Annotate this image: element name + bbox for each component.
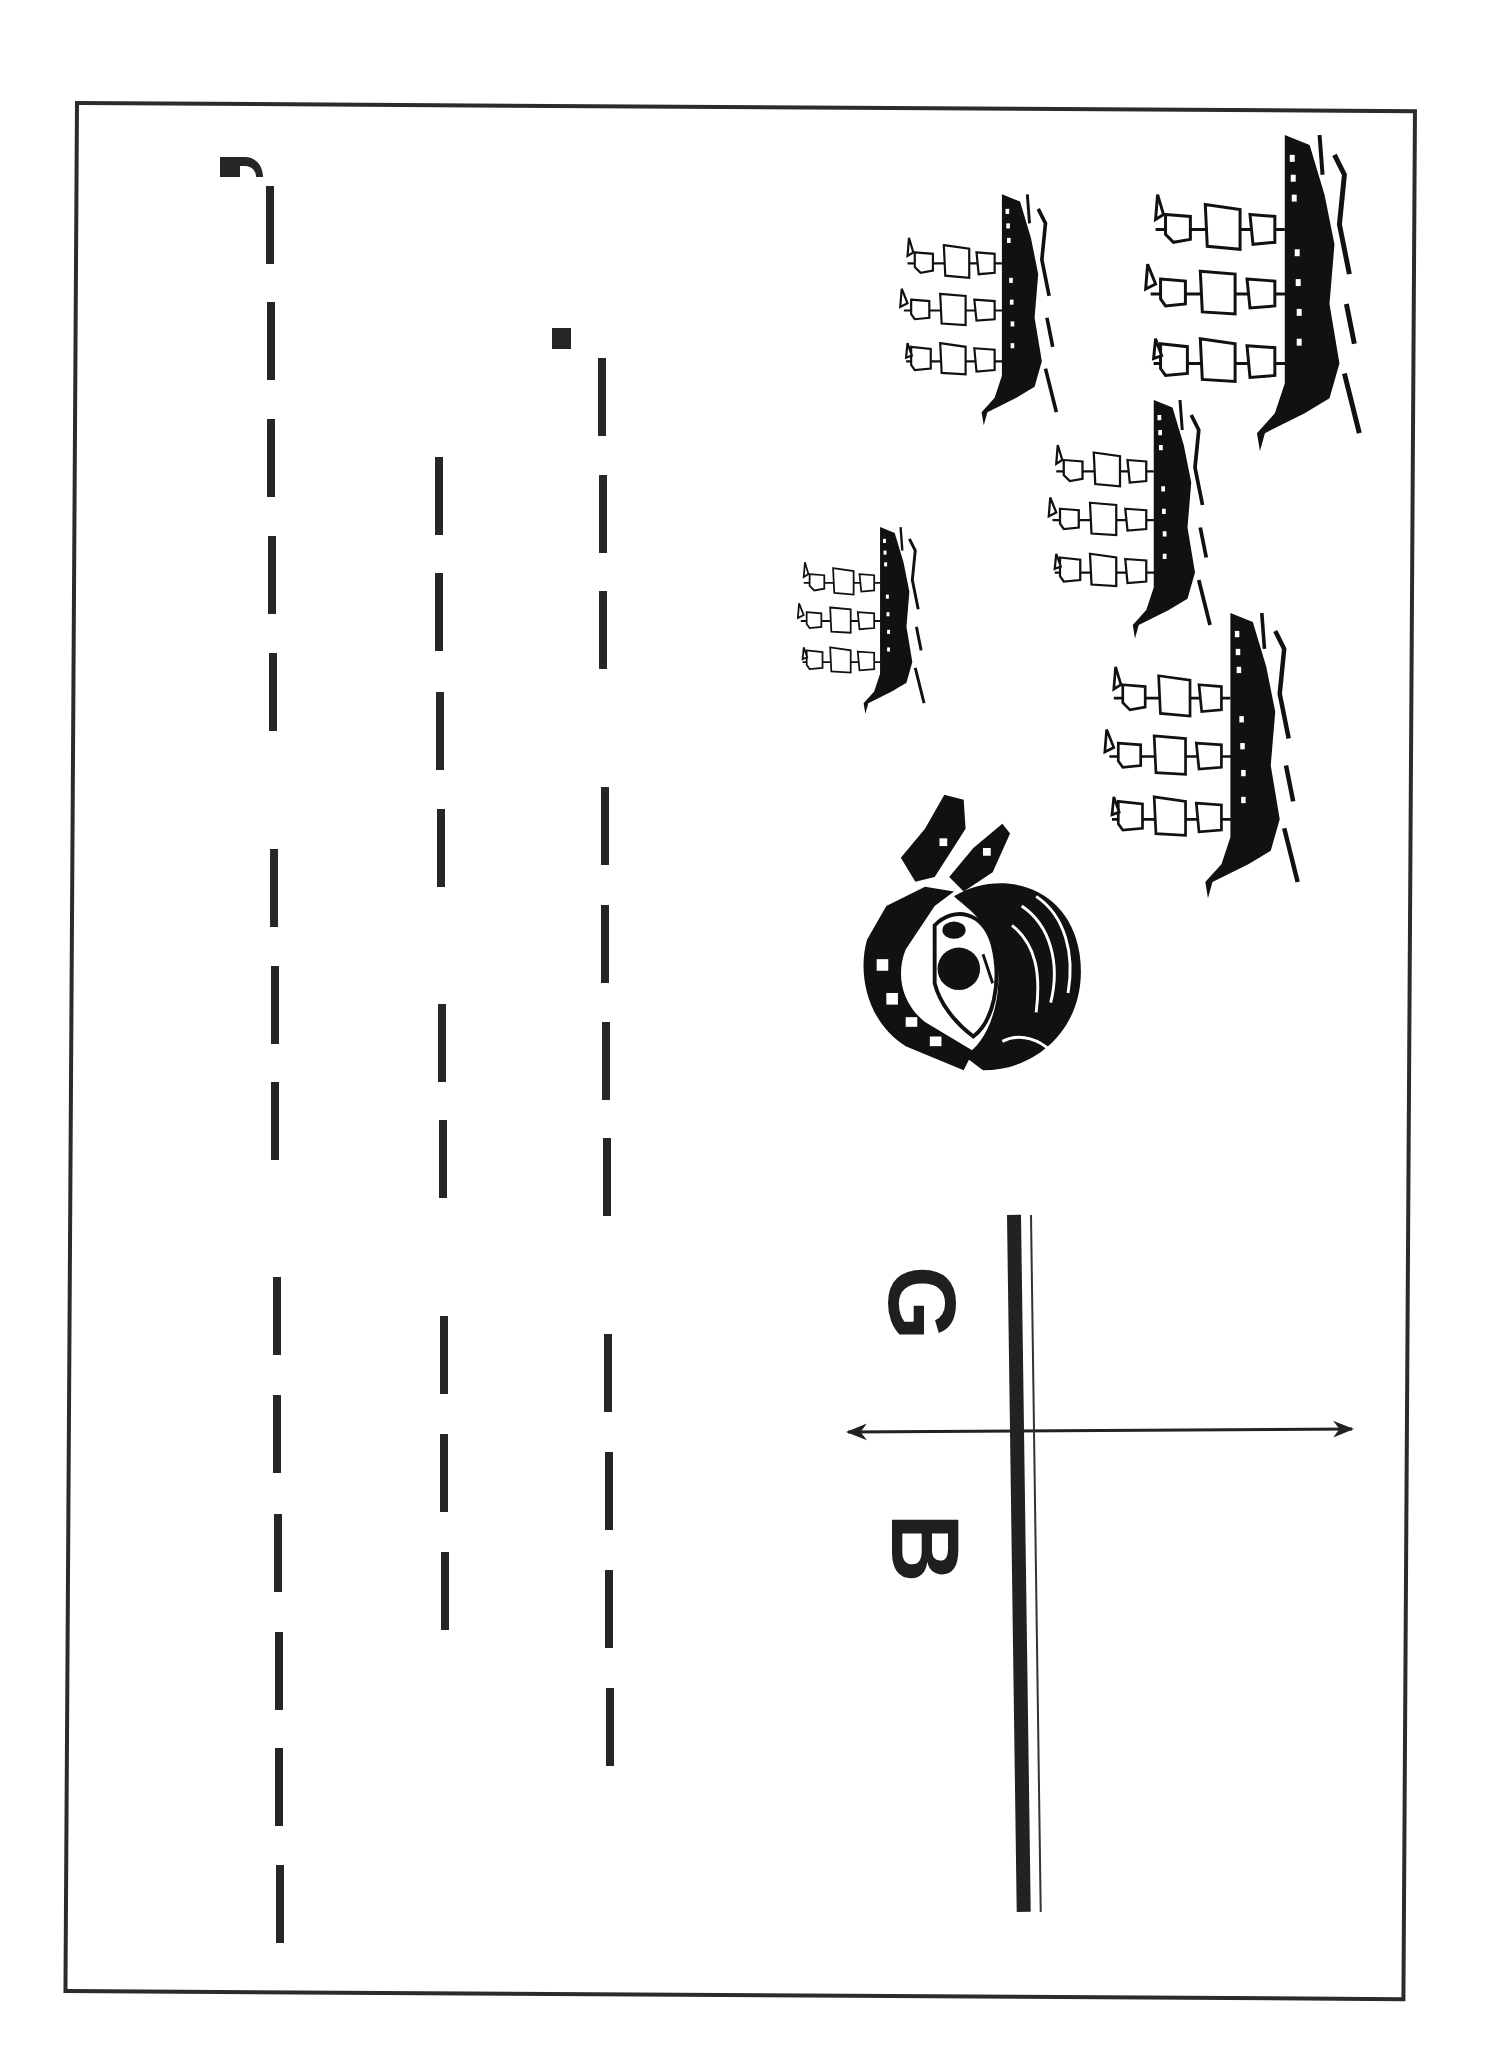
pirate-ship-icon [798,527,924,714]
letter-b-label: B [877,1513,973,1582]
worksheet-page: G B [0,0,1485,2067]
pirate-ship-icon [900,194,1056,425]
pirate-ship-icon [1146,135,1360,451]
pirate-ship-icon [1049,400,1210,639]
tracing-start-square-icon [552,328,571,349]
pirate-head-icon [864,795,1081,1071]
pirate-ship-icon [1105,613,1298,898]
tracing-start-curl-icon [220,157,263,177]
illustrations-layer [0,0,1485,2067]
double-headed-arrow-icon [848,1429,1352,1432]
letter-g-label: G [874,1266,970,1341]
